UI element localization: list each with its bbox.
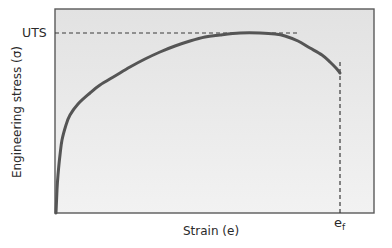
stress-strain-chart bbox=[0, 0, 392, 248]
fracture-label-base: e bbox=[334, 215, 342, 230]
x-axis-label: Strain (e) bbox=[183, 224, 239, 238]
fracture-strain-label: ef bbox=[334, 215, 345, 232]
uts-label: UTS bbox=[22, 25, 47, 40]
plot-area bbox=[55, 9, 374, 213]
y-axis-label: Engineering stress (σ) bbox=[10, 46, 24, 178]
fracture-label-subscript: f bbox=[342, 222, 345, 232]
